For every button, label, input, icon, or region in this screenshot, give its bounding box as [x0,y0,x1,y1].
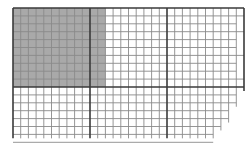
graph-paper-grid [0,0,250,149]
grid-diagram [0,0,250,149]
